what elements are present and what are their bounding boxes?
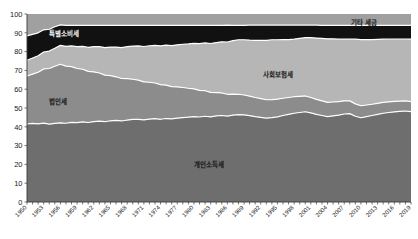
series-annotation-label: 법인세 (49, 97, 67, 106)
x-tick-label: 1953 (31, 204, 45, 218)
y-axis: 0102030405060708090100 (10, 10, 27, 207)
y-tick-label: 90 (14, 29, 22, 38)
x-tick-label: 1977 (164, 204, 178, 218)
x-tick-label: 1965 (97, 204, 111, 218)
x-tick-label: 1989 (231, 204, 245, 218)
y-tick-label: 20 (14, 160, 22, 169)
x-tick-label: 1950 (14, 204, 28, 218)
y-tick-label: 50 (14, 104, 22, 113)
x-tick-label: 2004 (315, 204, 329, 218)
x-tick-label: 2013 (365, 204, 379, 218)
x-tick-label: 1995 (264, 204, 278, 218)
x-tick-label: 1956 (47, 204, 61, 218)
chart-canvas: 0102030405060708090100 19501953195619591… (0, 0, 418, 239)
y-tick-label: 100 (10, 10, 23, 19)
x-tick-label: 2001 (298, 204, 312, 218)
y-tick-label: 10 (14, 179, 22, 188)
y-tick-label: 60 (14, 85, 22, 94)
x-axis: 1950195319561959196219651968197119741977… (14, 202, 412, 218)
stacked-area-chart: 0102030405060708090100 19501953195619591… (0, 0, 418, 239)
x-tick-label: 2019 (398, 204, 412, 218)
x-tick-label: 1971 (131, 204, 145, 218)
y-tick-label: 70 (14, 66, 22, 75)
x-tick-label: 1998 (281, 204, 295, 218)
y-tick-label: 40 (14, 123, 22, 132)
x-tick-label: 2007 (331, 204, 345, 218)
x-tick-label: 1962 (81, 204, 95, 218)
area-band (27, 111, 411, 202)
x-tick-label: 1974 (148, 204, 162, 218)
x-tick-label: 1959 (64, 204, 78, 218)
y-tick-label: 30 (14, 141, 22, 150)
x-tick-label: 1986 (214, 204, 228, 218)
y-tick-label: 80 (14, 47, 22, 56)
series-annotation-label: 개인소득세 (194, 160, 224, 169)
series-annotation-label: 특별소비세 (49, 29, 79, 38)
series-annotation-label: 기타 세금 (351, 18, 377, 27)
x-tick-label: 1968 (114, 204, 128, 218)
x-tick-label: 1983 (198, 204, 212, 218)
series-annotation-label: 사회보험세 (263, 70, 293, 79)
x-tick-label: 1980 (181, 204, 195, 218)
x-tick-label: 2010 (348, 204, 362, 218)
x-tick-label: 1992 (248, 204, 262, 218)
x-tick-label: 2016 (381, 204, 395, 218)
